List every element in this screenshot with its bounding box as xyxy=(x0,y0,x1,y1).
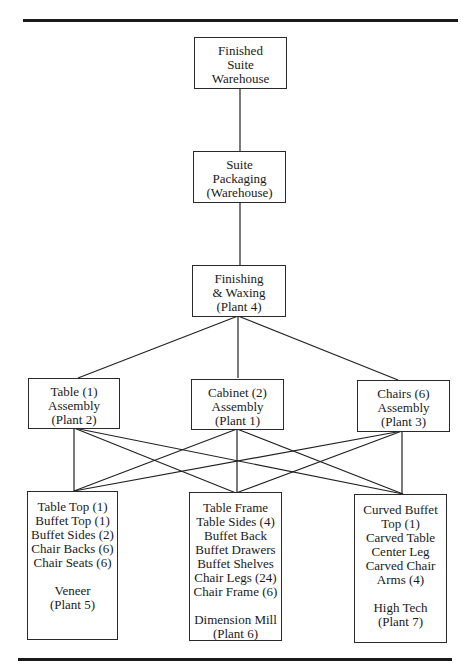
node-label: Chairs (6) xyxy=(358,387,449,401)
node-high-tech-plant: Curved Buffet Top (1) Carved Table Cente… xyxy=(354,494,447,643)
part-item: Buffet Back xyxy=(190,529,281,543)
node-label: Suite xyxy=(195,58,286,72)
plant-number: (Plant 7) xyxy=(355,615,446,629)
node-dimension-mill-plant: Table Frame Table Sides (4) Buffet Back … xyxy=(189,492,282,641)
part-item: Top (1) xyxy=(355,517,446,531)
part-item: Table Sides (4) xyxy=(190,515,281,529)
part-item: Carved Table xyxy=(355,531,446,545)
node-label: (Warehouse) xyxy=(194,186,285,200)
plant-number: (Plant 6) xyxy=(190,627,281,641)
part-item: Chair Frame (6) xyxy=(190,585,281,599)
plant-name: Dimension Mill xyxy=(190,613,281,627)
plant-name: High Tech xyxy=(355,601,446,615)
node-label: (Plant 1) xyxy=(192,414,283,428)
part-item: Buffet Sides (2) xyxy=(28,528,117,542)
part-item: Arms (4) xyxy=(355,573,446,587)
node-chairs-assembly: Chairs (6) Assembly (Plant 3) xyxy=(357,380,450,432)
part-item: Buffet Top (1) xyxy=(28,514,117,528)
node-label: Finished xyxy=(195,44,286,58)
edge-chairs-veneer xyxy=(74,431,402,491)
part-item: Chair Backs (6) xyxy=(28,542,117,556)
plant-number: (Plant 5) xyxy=(28,598,117,612)
part-item: Buffet Shelves xyxy=(190,557,281,571)
node-finished-suite-warehouse: Finished Suite Warehouse xyxy=(194,37,287,89)
node-cabinet-assembly: Cabinet (2) Assembly (Plant 1) xyxy=(191,379,284,430)
node-label: Assembly xyxy=(358,401,449,415)
part-item: Chair Seats (6) xyxy=(28,556,117,570)
node-label: Cabinet (2) xyxy=(192,386,283,400)
part-item: Carved Chair xyxy=(355,559,446,573)
part-item: Buffet Drawers xyxy=(190,543,281,557)
node-label: (Plant 3) xyxy=(358,415,449,429)
node-suite-packaging: Suite Packaging (Warehouse) xyxy=(193,151,286,203)
node-label: (Plant 2) xyxy=(29,413,119,427)
part-item: Chair Legs (24) xyxy=(190,571,281,585)
node-label: Table (1) xyxy=(29,385,119,399)
node-veneer-plant: Table Top (1) Buffet Top (1) Buffet Side… xyxy=(27,491,118,640)
node-label: Finishing xyxy=(193,272,285,286)
plant-name: Veneer xyxy=(28,584,117,598)
part-item: Curved Buffet xyxy=(355,503,446,517)
node-label: Assembly xyxy=(192,400,283,414)
part-item: Table Frame xyxy=(190,501,281,515)
node-label: (Plant 4) xyxy=(193,300,285,314)
edge-finishing-table xyxy=(78,316,238,378)
node-label: Assembly xyxy=(29,399,119,413)
node-table-assembly: Table (1) Assembly (Plant 2) xyxy=(28,378,120,429)
node-label: Suite xyxy=(194,158,285,172)
edge-finishing-chairs xyxy=(238,316,398,380)
node-finishing-waxing: Finishing & Waxing (Plant 4) xyxy=(192,265,286,317)
node-label: & Waxing xyxy=(193,286,285,300)
part-item: Table Top (1) xyxy=(28,500,117,514)
part-item: Center Leg xyxy=(355,545,446,559)
node-label: Warehouse xyxy=(195,72,286,86)
node-label: Packaging xyxy=(194,172,285,186)
